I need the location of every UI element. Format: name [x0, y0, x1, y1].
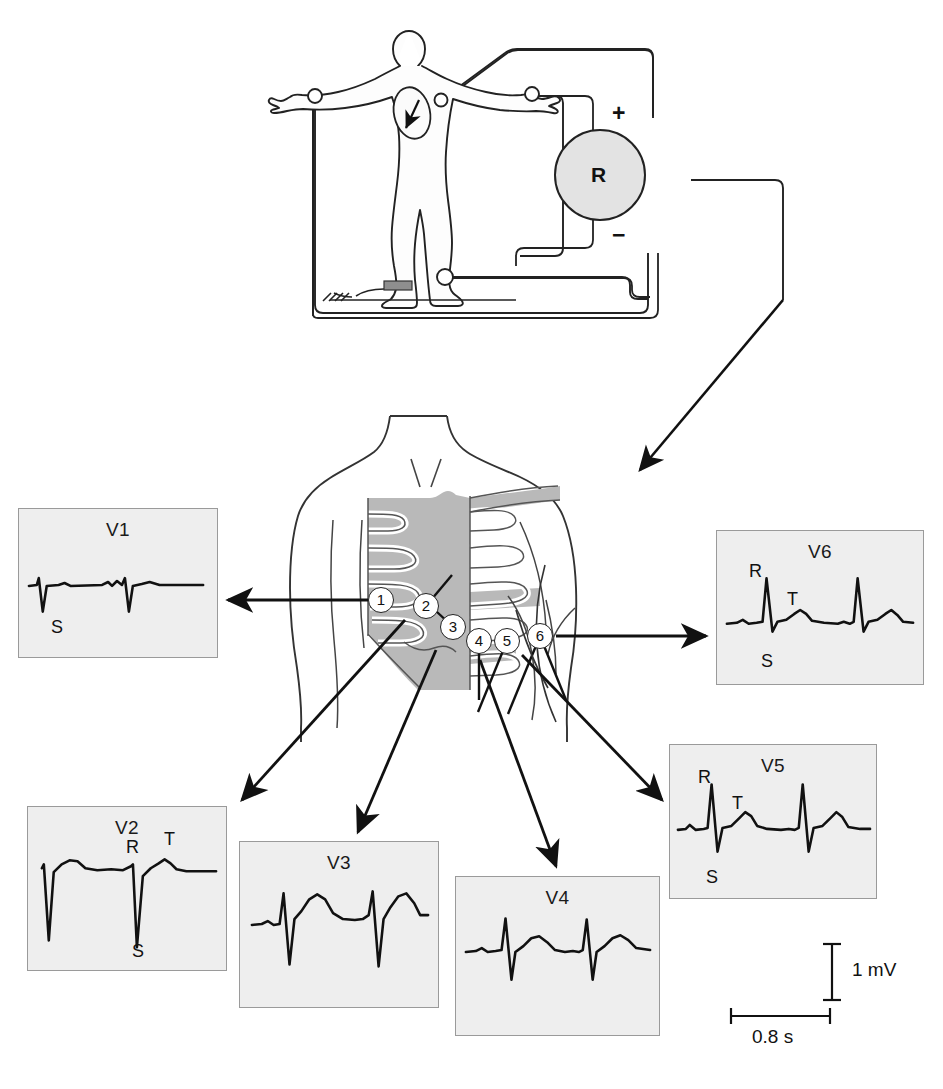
scale-label-time: 0.8 s — [752, 1026, 793, 1048]
electrode-badge-3[interactable]: 3 — [440, 614, 466, 640]
electrode-badge-5[interactable]: 5 — [494, 628, 520, 654]
scale-label-voltage: 1 mV — [852, 959, 896, 981]
electrode-badge-1[interactable]: 1 — [368, 587, 394, 613]
electrode-badge-2[interactable]: 2 — [413, 593, 439, 619]
scale-bars-layer — [0, 0, 943, 1089]
electrode-badge-4[interactable]: 4 — [466, 628, 492, 654]
electrode-badge-6[interactable]: 6 — [527, 623, 553, 649]
figure-canvas: R + − — [0, 0, 943, 1089]
